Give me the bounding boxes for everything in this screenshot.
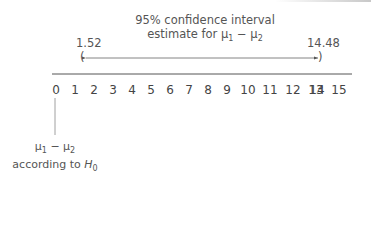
tick-label: 3 [109,83,117,97]
tick-label: 5 [147,83,155,97]
tick-label: 11 [262,83,277,97]
null-label-line-1: μ1 − μ2 [5,140,105,158]
tick-label: 2 [90,83,98,97]
tick-label: 0 [52,83,60,97]
tick-label: 1 [71,83,79,97]
tick-label: 15 [331,83,346,97]
tick-label: 9 [223,83,231,97]
tick-label: 8 [204,83,212,97]
tick-label: 4 [128,83,136,97]
tick-label: 10 [240,83,255,97]
tick-label: 6 [166,83,174,97]
tick-label: 7 [185,83,193,97]
tick-label-14: 14 [309,83,324,97]
null-hypothesis-label: μ1 − μ2 according to H0 [5,140,105,176]
tick-label: 12 [285,83,300,97]
null-label-line-2: according to H0 [5,158,105,176]
